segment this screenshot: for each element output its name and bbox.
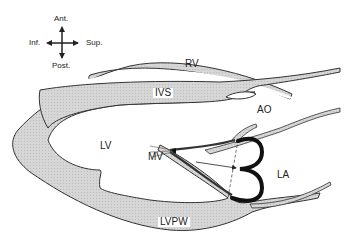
orientation-inferior: Inf. [29, 39, 40, 47]
label-ao: AO [257, 105, 271, 115]
heart-diagram [0, 0, 352, 252]
flow-arrow-icon [196, 162, 236, 168]
label-la: LA [277, 170, 289, 180]
orientation-anterior: Ant. [54, 15, 68, 23]
label-lv: LV [100, 141, 112, 151]
mitral-annulus-line [228, 140, 238, 198]
label-mv: MV [148, 152, 163, 162]
orientation-posterior: Post. [52, 62, 70, 70]
orientation-superior: Sup. [86, 39, 102, 47]
mitral-posterior-leaflet [170, 152, 232, 195]
orientation-compass-icon [47, 27, 78, 58]
label-lvpw: LVPW [158, 217, 190, 227]
prolapsing-leaflet [232, 139, 262, 201]
aortic-posterior-wall [205, 108, 340, 154]
label-rv: RV [185, 59, 199, 69]
label-ivs: IVS [153, 88, 173, 98]
